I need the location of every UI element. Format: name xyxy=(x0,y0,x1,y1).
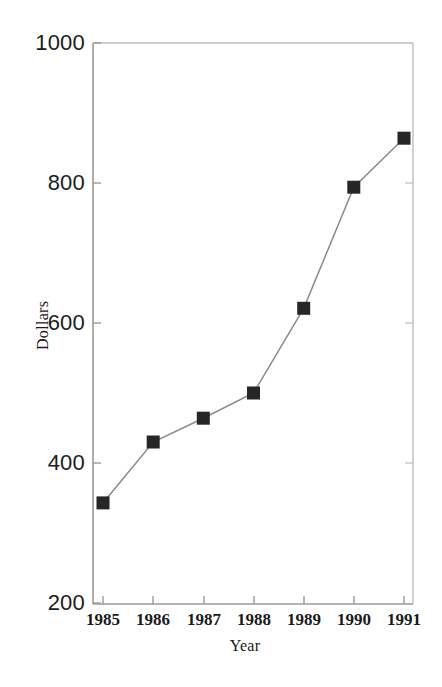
y-axis-ticks xyxy=(93,43,101,603)
data-point-1986 xyxy=(147,436,160,449)
x-tick-label-1991: 1991 xyxy=(375,611,433,629)
data-point-1987 xyxy=(197,412,210,425)
x-tick-label-1986: 1986 xyxy=(124,611,182,629)
x-axis-title: Year xyxy=(195,637,295,655)
y-axis-title: Dollars xyxy=(34,301,52,350)
plot-area-svg xyxy=(0,0,442,687)
y-axis-ticks-right xyxy=(405,183,413,463)
data-point-1985 xyxy=(97,496,110,509)
data-point-1990 xyxy=(347,181,360,194)
y-tick-label-400: 400 xyxy=(13,452,85,474)
data-point-1991 xyxy=(398,132,411,145)
data-point-1988 xyxy=(247,387,260,400)
line-chart: 1000 800 600 400 200 1985 1986 1987 1988… xyxy=(0,0,442,687)
y-tick-label-800: 800 xyxy=(13,172,85,194)
y-tick-label-1000: 1000 xyxy=(13,32,85,54)
axis-frame xyxy=(93,43,413,604)
x-axis-ticks xyxy=(103,596,404,604)
data-point-1989 xyxy=(297,302,310,315)
